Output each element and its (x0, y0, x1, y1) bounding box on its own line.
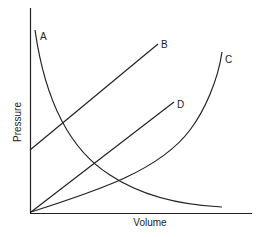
line-b (30, 44, 158, 150)
label-c: C (225, 54, 232, 65)
label-d: D (177, 99, 184, 110)
y-axis-label: Pressure (12, 102, 23, 142)
x-axis-label: Volume (133, 217, 167, 228)
pressure-volume-graph: A B C D Volume Pressure (0, 0, 260, 237)
curve-a (35, 30, 222, 207)
label-a: A (40, 31, 47, 42)
curve-c (31, 52, 222, 212)
label-b: B (161, 39, 168, 50)
